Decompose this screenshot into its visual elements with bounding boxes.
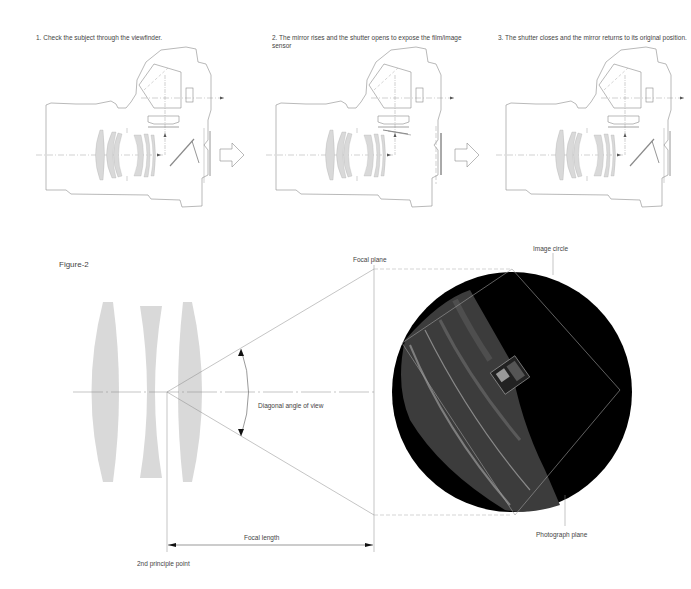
focal-length-label: Focal length <box>244 534 279 542</box>
camera-diagram-step-3 <box>496 47 684 207</box>
diagonal-angle-label: Diagonal angle of view <box>258 402 323 410</box>
image-circle-photo <box>392 269 632 515</box>
step-1-label: 1. Check the subject through the viewfin… <box>36 34 226 42</box>
principle-point-label: 2nd principle point <box>137 560 190 568</box>
focal-plane-label: Focal plane <box>353 256 387 264</box>
arrow-right-icon <box>220 143 244 167</box>
camera-diagram-step-2 <box>266 47 454 207</box>
image-circle-label: Image circle <box>533 245 568 253</box>
photograph-plane-label: Photograph plane <box>536 531 587 539</box>
step-3-label: 3. The shutter closes and the mirror ret… <box>498 34 688 42</box>
camera-diagram-step-1 <box>36 47 224 207</box>
step-2-label: 2. The mirror rises and the shutter open… <box>272 34 462 50</box>
diagram-canvas <box>0 0 691 589</box>
arrow-right-icon <box>455 143 479 167</box>
figure-title: Figure-2 <box>59 260 89 269</box>
